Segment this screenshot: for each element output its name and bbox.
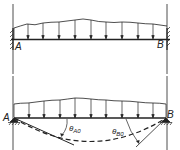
angle-arc-A [62, 119, 67, 135]
top-panel [10, 4, 170, 74]
theta-B0-label: θB0 [112, 127, 124, 137]
label-A-bottom: A [2, 112, 10, 123]
angle-arrow-A-icon [61, 134, 64, 137]
deflection-curve [14, 118, 166, 142]
tangent-line-B [136, 118, 166, 147]
angle-arc-B [126, 119, 138, 142]
pin-support-left-icon [8, 118, 20, 125]
fixed-support-right-icon [167, 27, 170, 50]
tangent-line-A [14, 118, 74, 145]
label-B-top: B [157, 39, 164, 50]
distributed-load-curve-bottom [14, 98, 166, 104]
label-A-top: A [14, 41, 22, 52]
beam-diagram: A B [0, 0, 180, 150]
label-B-bottom: B [167, 109, 174, 120]
theta-A0-label: θA0 [69, 124, 81, 134]
distributed-load-curve [14, 19, 167, 28]
bottom-panel [8, 76, 172, 150]
